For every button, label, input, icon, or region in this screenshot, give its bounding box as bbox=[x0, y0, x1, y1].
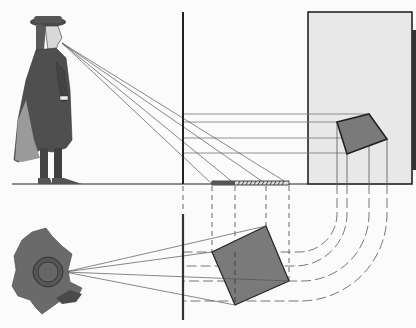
panel-edge-shadow bbox=[412, 30, 416, 170]
picture-panel bbox=[308, 12, 412, 184]
rotation-arcs bbox=[183, 184, 387, 301]
hatched-bar bbox=[212, 181, 289, 185]
perspective-diagram: Perspective projection: viewer, picture … bbox=[0, 0, 416, 328]
square-plan-view bbox=[212, 226, 289, 305]
elevation-sight-rays bbox=[62, 43, 289, 184]
standing-man-figure bbox=[14, 16, 82, 184]
